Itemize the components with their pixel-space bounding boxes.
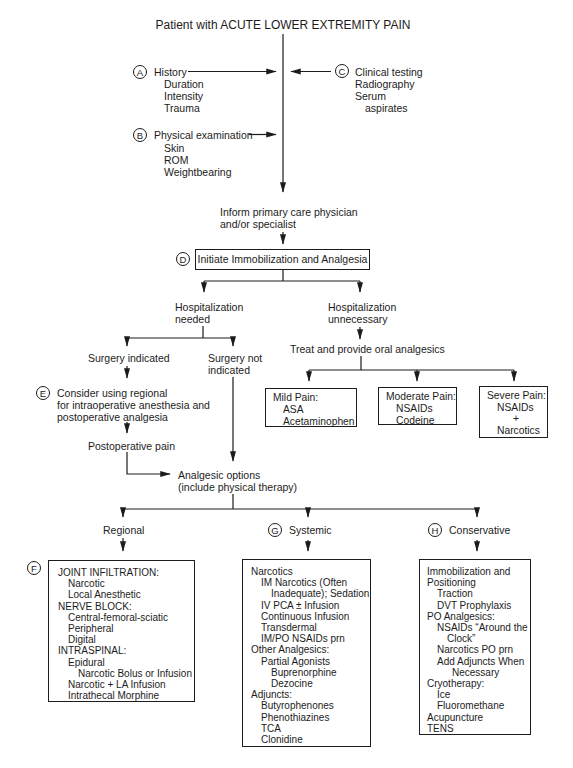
- severe-pain-box: Severe Pain: NSAIDs + Narcotics: [479, 386, 548, 438]
- conservative-box-line: Fluoromethane: [427, 700, 530, 711]
- mild-pain-box: Mild Pain: ASA Acetaminophen: [265, 388, 357, 427]
- physical-exam-item: ROM: [164, 154, 189, 166]
- conservative-box-line: Clock”: [427, 633, 530, 644]
- history-label: History: [154, 66, 187, 78]
- systemic-box-line: Phenothiazines: [251, 712, 370, 723]
- systemic-box-line: IM Narcotics (Often: [251, 577, 370, 588]
- physical-exam-item: Weightbearing: [164, 166, 232, 178]
- surgery-not-line1: Surgery not: [208, 352, 262, 364]
- physical-exam-label: Physical examination: [154, 129, 253, 141]
- systemic-box-line: IM/PO NSAIDs prn: [251, 633, 370, 644]
- conservative-box-line: Cryotherapy:: [427, 678, 530, 689]
- regional-box-line: Local Anesthetic: [58, 589, 194, 600]
- inform-line1: Inform primary care physician: [220, 206, 358, 218]
- consider-regional-line1: Consider using regional: [57, 387, 167, 399]
- step-letter-h: H: [428, 523, 442, 537]
- systemic-box-line: Narcotics: [251, 566, 370, 577]
- conservative-box-line: DVT Prophylaxis: [427, 600, 530, 611]
- moderate-pain-item: Codeine: [386, 415, 456, 427]
- surgery-indicated-label: Surgery indicated: [88, 352, 170, 364]
- consider-regional-line2: for intraoperative anesthesia and: [57, 399, 210, 411]
- conservative-box-line: Positioning: [427, 577, 530, 588]
- hosp-needed-line2: needed: [175, 313, 210, 325]
- analgesic-options-line2: (include physical therapy): [178, 481, 297, 493]
- clinical-testing-item: Serum: [355, 90, 386, 102]
- regional-box-line: Narcotic: [58, 578, 194, 589]
- systemic-box-line: Adjuncts:: [251, 689, 370, 700]
- step-letter-d: D: [176, 252, 190, 266]
- history-item: Trauma: [164, 102, 200, 114]
- severe-pain-plus: +: [487, 413, 547, 425]
- branch-conservative-label: Conservative: [449, 524, 510, 536]
- regional-box-line: Intrathecal Morphine: [58, 690, 194, 701]
- systemic-options-box: Narcotics IM Narcotics (Often Inadequate…: [242, 559, 371, 747]
- connector-postop-elbow: [127, 452, 170, 474]
- connector-needed-split-bar: [127, 326, 233, 338]
- systemic-box-line: Clonidine: [251, 734, 370, 745]
- conservative-box-line: Traction: [427, 588, 530, 599]
- clinical-testing-item: Radiography: [355, 78, 415, 90]
- treat-oral-label: Treat and provide oral analgesics: [290, 343, 445, 355]
- systemic-box-line: Partial Agonists: [251, 656, 370, 667]
- inform-line2: and/or specialist: [220, 218, 296, 230]
- regional-box-line: NERVE BLOCK:: [58, 601, 194, 612]
- regional-options-box: JOINT INFILTRATION: Narcotic Local Anest…: [48, 560, 195, 702]
- systemic-box-line: IV PCA ± Infusion: [251, 600, 370, 611]
- physical-exam-item: Skin: [164, 142, 184, 154]
- conservative-box-line: Acupuncture: [427, 712, 530, 723]
- regional-box-line: JOINT INFILTRATION:: [58, 567, 194, 578]
- moderate-pain-box: Moderate Pain: NSAIDs Codeine: [378, 387, 457, 425]
- regional-box-line: Peripheral: [58, 623, 194, 634]
- regional-box-line: Narcotic + LA Infusion: [58, 679, 194, 690]
- consider-regional-line3: postoperative analgesia: [57, 411, 168, 423]
- surgery-not-line2: indicated: [208, 364, 250, 376]
- hosp-unnecessary-line2: unnecessary: [328, 313, 388, 325]
- hosp-needed-line1: Hospitalization: [175, 301, 243, 313]
- flowchart-canvas: Patient with ACUTE LOWER EXTREMITY PAIN …: [0, 0, 573, 768]
- systemic-box-line: Inadequate); Sedation: [251, 588, 370, 599]
- regional-box-line: INTRASPINAL:: [58, 645, 194, 656]
- step-letter-e: E: [36, 386, 50, 400]
- connector-initiate-split-bar: [204, 270, 360, 281]
- mild-pain-title: Mild Pain:: [273, 392, 356, 404]
- conservative-box-line: Necessary: [427, 667, 530, 678]
- conservative-box-line: PO Analgesics:: [427, 611, 530, 622]
- regional-box-line: Digital: [58, 634, 194, 645]
- severe-pain-title: Severe Pain:: [487, 390, 547, 402]
- clinical-testing-label: Clinical testing: [355, 66, 423, 78]
- systemic-box-line: Buprenorphine: [251, 667, 370, 678]
- mild-pain-item: Acetaminophen: [273, 416, 356, 428]
- step-letter-a: A: [133, 65, 147, 79]
- step-letter-c: C: [335, 64, 349, 78]
- systemic-box-line: Transdermal: [251, 622, 370, 633]
- clinical-testing-item: aspirates: [365, 102, 408, 114]
- systemic-box-line: Dezocine: [251, 678, 370, 689]
- diagram-title: Patient with ACUTE LOWER EXTREMITY PAIN: [0, 19, 566, 32]
- moderate-pain-title: Moderate Pain:: [386, 391, 456, 403]
- systemic-box-line: Butyrophenones: [251, 700, 370, 711]
- systemic-box-line: Continuous Infusion: [251, 611, 370, 622]
- conservative-box-line: NSAIDs “Around the: [427, 622, 530, 633]
- regional-box-line: Epidural: [58, 657, 194, 668]
- analgesic-options-line1: Analgesic options: [178, 469, 260, 481]
- systemic-box-line: Other Analgesics:: [251, 644, 370, 655]
- step-letter-f: F: [27, 561, 41, 575]
- conservative-box-line: Immobilization and: [427, 566, 530, 577]
- regional-box-line: Central-femoral-sciatic: [58, 612, 194, 623]
- step-letter-g: G: [268, 523, 282, 537]
- conservative-box-line: Add Adjuncts When: [427, 656, 530, 667]
- history-item: Duration: [164, 78, 204, 90]
- connector-analgesic-split-bar: [123, 494, 477, 509]
- branch-regional-label: Regional: [103, 524, 144, 536]
- postoperative-pain-label: Postoperative pain: [88, 440, 175, 452]
- regional-box-line: Narcotic Bolus or Infusion: [58, 668, 194, 679]
- hosp-unnecessary-line1: Hospitalization: [328, 301, 396, 313]
- initiate-immobilization-box: Initiate Immobilization and Analgesia: [195, 249, 370, 270]
- severe-pain-item: NSAIDs: [487, 402, 547, 414]
- severe-pain-item: Narcotics: [487, 425, 547, 437]
- mild-pain-item: ASA: [273, 404, 356, 416]
- connector-treat-split-bar: [309, 356, 514, 370]
- branch-systemic-label: Systemic: [289, 524, 332, 536]
- conservative-box-line: TENS: [427, 723, 530, 734]
- step-letter-b: B: [133, 128, 147, 142]
